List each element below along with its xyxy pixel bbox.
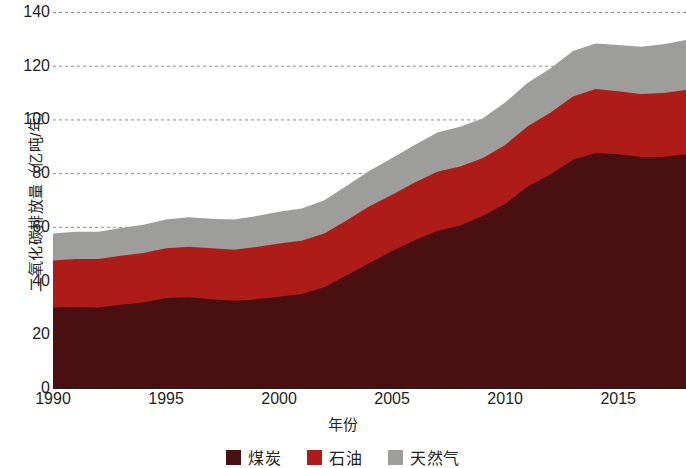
x-axis-title: 年份 [0,413,686,434]
x-tick-label: 2010 [470,391,540,407]
y-tick-label: 20 [10,326,50,342]
legend-label: 天然气 [410,445,460,468]
legend-swatch-icon [226,450,241,465]
y-tick-label: 100 [10,111,50,127]
legend-swatch-icon [307,450,322,465]
legend-swatch-icon [388,450,403,465]
legend-item[interactable]: 天然气 [388,445,460,468]
legend-label: 石油 [329,445,362,468]
x-tick-label: 2015 [583,391,653,407]
x-tick-label: 2000 [244,391,314,407]
y-tick-label: 120 [10,58,50,74]
x-tick-label: 2005 [357,391,427,407]
x-tick-label: 1990 [18,391,88,407]
co2-emissions-stacked-area-chart: 二氧化碳排放量（亿吨/年） 020406080100120140 1990199… [0,0,686,468]
x-tick-label: 1995 [131,391,201,407]
y-tick-label: 60 [10,219,50,235]
legend-item[interactable]: 煤炭 [226,445,281,468]
legend-item[interactable]: 石油 [307,445,362,468]
chart-legend: 煤炭石油天然气 [0,445,686,468]
y-tick-label: 40 [10,273,50,289]
area-series-group [53,40,686,388]
plot-svg [53,12,686,390]
y-tick-label: 140 [10,4,50,20]
plot-area [53,12,686,390]
legend-label: 煤炭 [248,445,281,468]
y-tick-label: 80 [10,165,50,181]
